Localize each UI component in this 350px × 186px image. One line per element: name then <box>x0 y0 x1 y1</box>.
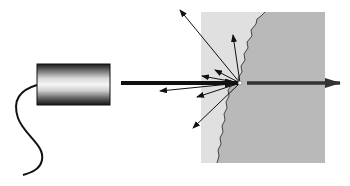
light-source-cylinder <box>37 64 110 105</box>
impact-point <box>238 81 242 85</box>
scattering-diagram <box>0 0 350 186</box>
